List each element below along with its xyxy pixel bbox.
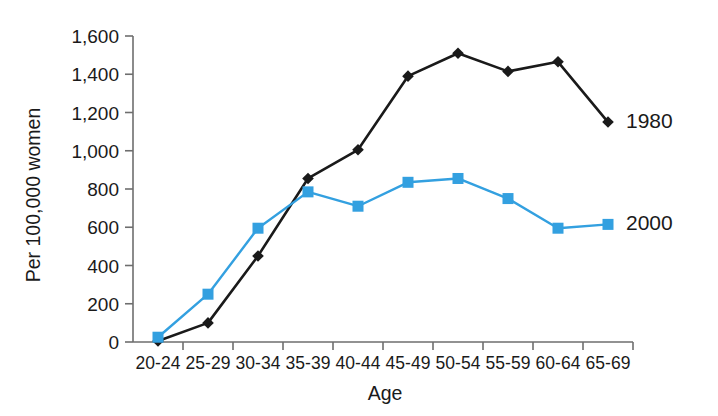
- series-label-1980: 1980: [626, 109, 673, 132]
- y-tick-label: 0: [108, 332, 119, 353]
- series-label-2000: 2000: [626, 211, 673, 234]
- series-line-1980: [158, 53, 608, 341]
- line-chart: 02004006008001,0001,2001,4001,600 20-242…: [0, 0, 718, 416]
- data-point-marker: [603, 219, 614, 230]
- y-tick-label: 1,000: [71, 141, 119, 162]
- data-point-marker: [253, 223, 264, 234]
- data-point-marker: [503, 193, 514, 204]
- data-point-marker: [452, 47, 464, 59]
- x-tick-label: 30-34: [236, 353, 281, 373]
- x-tick-label: 45-49: [386, 353, 431, 373]
- x-tick-label: 35-39: [286, 353, 331, 373]
- y-tick-label: 600: [87, 217, 119, 238]
- data-point-marker: [203, 289, 214, 300]
- y-tick-label: 1,600: [71, 26, 119, 47]
- data-point-marker: [153, 332, 164, 343]
- y-axis-title: Per 100,000 women: [22, 108, 44, 283]
- x-tick-label: 20-24: [136, 353, 181, 373]
- chart-canvas: 02004006008001,0001,2001,4001,600 20-242…: [0, 0, 718, 416]
- series-labels-group: 19802000: [626, 109, 673, 234]
- data-point-marker: [453, 173, 464, 184]
- x-tick-label: 50-54: [436, 353, 481, 373]
- x-axis-title: Age: [368, 382, 403, 404]
- data-point-marker: [502, 66, 514, 78]
- data-point-marker: [553, 223, 564, 234]
- x-tick-label: 55-59: [486, 353, 531, 373]
- x-axis: 20-2425-2930-3435-3940-4445-4950-5455-59…: [133, 342, 633, 373]
- x-tick-label: 25-29: [186, 353, 231, 373]
- x-tick-label: 65-69: [586, 353, 631, 373]
- series-line-2000: [158, 178, 608, 337]
- data-point-marker: [403, 177, 414, 188]
- data-point-marker: [303, 186, 314, 197]
- y-tick-label: 400: [87, 256, 119, 277]
- y-tick-label: 1,400: [71, 64, 119, 85]
- y-tick-label: 200: [87, 294, 119, 315]
- data-point-marker: [353, 201, 364, 212]
- data-series-group: [152, 47, 614, 346]
- y-tick-label: 800: [87, 179, 119, 200]
- y-axis: 02004006008001,0001,2001,4001,600: [71, 26, 133, 353]
- x-tick-label: 60-64: [536, 353, 581, 373]
- x-tick-label: 40-44: [336, 353, 381, 373]
- y-tick-label: 1,200: [71, 103, 119, 124]
